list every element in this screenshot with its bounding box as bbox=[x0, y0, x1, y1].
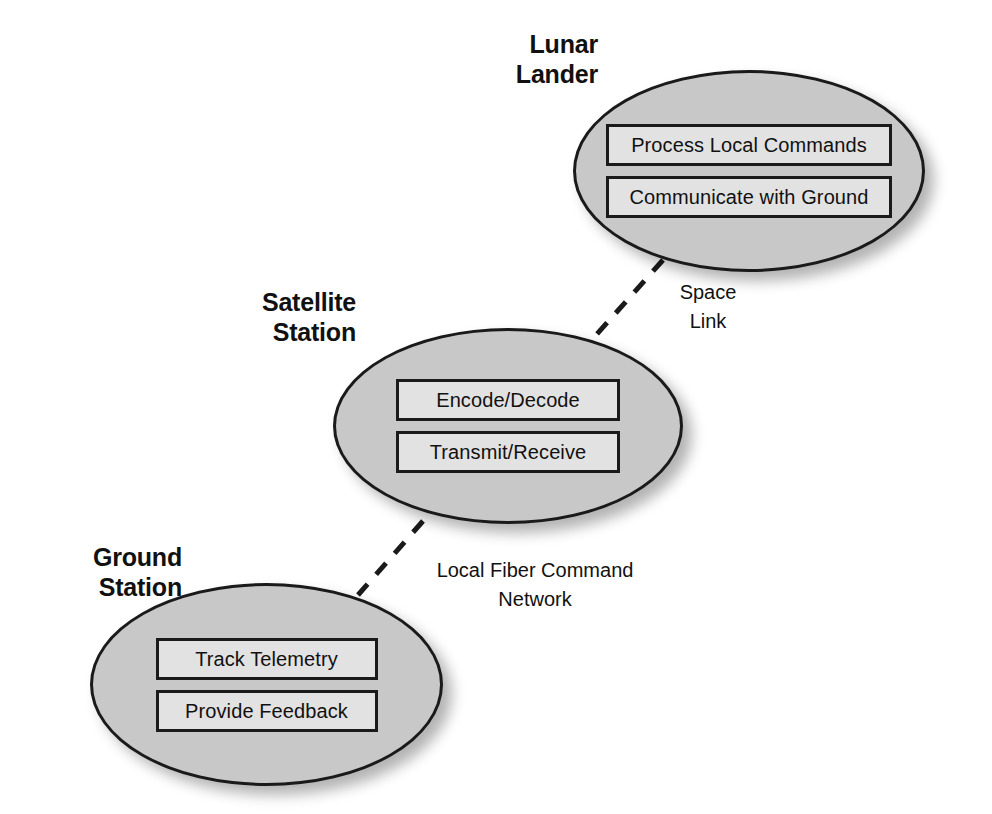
diagram-canvas: Lunar Lander Process Local Commands Comm… bbox=[0, 0, 992, 814]
node-title-satellite-station: Satellite Station bbox=[156, 288, 356, 347]
component-encode-decode[interactable]: Encode/Decode bbox=[396, 379, 620, 421]
component-track-telemetry[interactable]: Track Telemetry bbox=[156, 638, 378, 680]
component-process-local-commands[interactable]: Process Local Commands bbox=[606, 124, 892, 166]
component-transmit-receive[interactable]: Transmit/Receive bbox=[396, 431, 620, 473]
component-provide-feedback[interactable]: Provide Feedback bbox=[156, 690, 378, 732]
node-components-satellite-station: Encode/Decode Transmit/Receive bbox=[336, 379, 680, 473]
node-title-ground-station: Ground Station bbox=[0, 543, 182, 602]
node-components-lunar-lander: Process Local Commands Communicate with … bbox=[576, 124, 922, 218]
node-satellite-station[interactable]: Encode/Decode Transmit/Receive bbox=[333, 328, 683, 524]
node-ground-station[interactable]: Track Telemetry Provide Feedback bbox=[90, 583, 443, 786]
node-title-lunar-lander: Lunar Lander bbox=[398, 30, 598, 89]
node-lunar-lander[interactable]: Process Local Commands Communicate with … bbox=[573, 70, 925, 272]
link-label-space-link: Space Link bbox=[648, 278, 768, 336]
component-communicate-with-ground[interactable]: Communicate with Ground bbox=[606, 176, 892, 218]
link-label-local-fiber-command-network: Local Fiber Command Network bbox=[410, 556, 660, 614]
node-components-ground-station: Track Telemetry Provide Feedback bbox=[93, 638, 440, 732]
